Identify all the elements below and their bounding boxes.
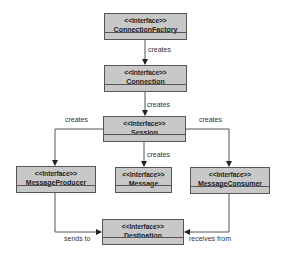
class-name: Message	[116, 179, 171, 188]
class-name: Session	[104, 128, 185, 137]
stereotype: <<Interface>>	[103, 222, 183, 231]
box-message: <<Interface>>Message	[115, 167, 172, 193]
stereotype: <<Interface>>	[104, 119, 185, 128]
box-destination: <<Interface>>Destination	[102, 219, 184, 245]
box-message-producer: <<Interface>>MessageProducer	[16, 166, 96, 193]
edge-label-sends-to: sends to	[64, 235, 90, 242]
edge-label-cf-connection: creates	[148, 46, 171, 53]
box-session: <<Interface>>Session	[103, 116, 186, 142]
stereotype: <<Interface>>	[191, 170, 269, 179]
edge-label-receives-from: receives from	[189, 235, 231, 242]
stereotype: <<Interface>>	[105, 68, 186, 77]
class-name: Destination	[103, 231, 183, 240]
stereotype: <<Interface>>	[17, 169, 95, 178]
edge-label-session-consumer: creates	[199, 116, 222, 123]
edge-label-session-producer: creates	[65, 116, 88, 123]
stereotype: <<Interface>>	[116, 170, 171, 179]
edge-label-session-message: creates	[147, 151, 170, 158]
edge-label-connection-session: creates	[147, 101, 170, 108]
box-connection: <<Interface>>Connection	[104, 65, 187, 92]
box-message-consumer: <<Interface>>MessageConsumer	[190, 167, 270, 194]
stereotype: <<Interface>>	[105, 16, 186, 25]
box-connection-factory: <<Interface>>ConnectionFactory	[104, 13, 187, 40]
